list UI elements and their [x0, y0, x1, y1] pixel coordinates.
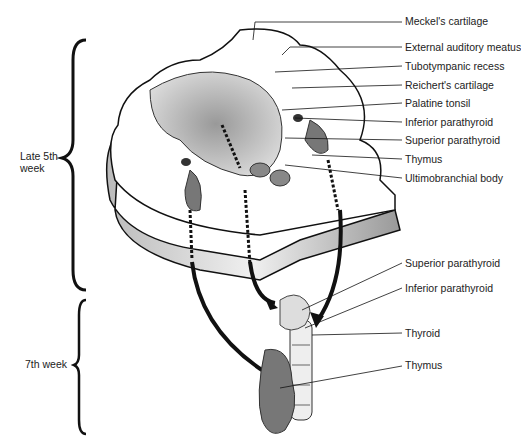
stage-line1: Late 5th: [20, 150, 58, 162]
label-inferior-parathyroid-upper: Inferior parathyroid: [405, 116, 493, 128]
stage-label-7th-week: 7th week: [25, 358, 67, 370]
stage-label-late-5th-week: Late 5th week: [20, 150, 58, 174]
label-thymus-upper: Thymus: [405, 153, 442, 165]
label-meckels-cartilage: Meckel's cartilage: [405, 15, 488, 27]
brace-late-5th-week: [62, 40, 86, 290]
label-thyroid: Thyroid: [405, 327, 440, 339]
label-palatine-tonsil: Palatine tonsil: [405, 97, 470, 109]
label-superior-parathyroid-lower: Superior parathyroid: [405, 257, 500, 269]
brace-7th-week: [74, 300, 86, 434]
stage-line2: week: [20, 162, 58, 174]
label-tubotympanic-recess: Tubotympanic recess: [405, 60, 504, 72]
label-reicherts-cartilage: Reichert's cartilage: [405, 79, 494, 91]
label-ultimobranchial-body: Ultimobranchial body: [405, 172, 503, 184]
label-superior-parathyroid-upper: Superior parathyroid: [405, 134, 500, 146]
label-thymus-lower: Thymus: [405, 359, 442, 371]
label-external-auditory-meatus: External auditory meatus: [405, 41, 521, 53]
label-inferior-parathyroid-lower: Inferior parathyroid: [405, 282, 493, 294]
